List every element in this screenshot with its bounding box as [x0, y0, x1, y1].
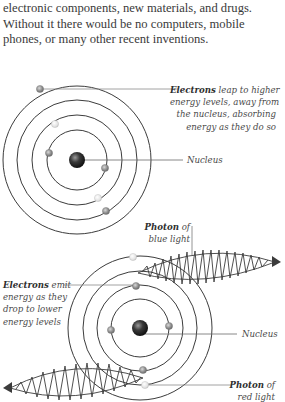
- label-text: the nucleus, absorbing: [170, 108, 276, 120]
- label-text: energy as they do so: [170, 121, 276, 133]
- label-bold: Electrons: [3, 280, 49, 290]
- electrons-absorb-label: Electrons leap to higher energy levels, …: [170, 84, 276, 133]
- photon-red-label: Photon of red light: [220, 379, 275, 402]
- electron-icon: [107, 326, 114, 333]
- label-text: energy levels: [3, 316, 71, 328]
- label-text: red light: [220, 391, 275, 402]
- electron-icon: [101, 164, 108, 171]
- electron-excited-icon: [141, 381, 148, 388]
- arrow-right-icon: [272, 256, 281, 267]
- electron-excited-icon: [51, 120, 58, 127]
- label-text: of: [182, 222, 190, 232]
- label-text: of: [267, 380, 275, 390]
- electron-icon: [45, 149, 52, 156]
- label-bold: Electrons: [170, 85, 216, 95]
- electron-excited-icon: [94, 194, 101, 201]
- label-bold: Photon: [230, 380, 264, 390]
- nucleus-label-1: Nucleus: [187, 154, 223, 166]
- photon-blue-label: Photon of blue light: [140, 221, 190, 245]
- atom-absorption: [3, 85, 183, 234]
- electron-excited-icon: [129, 253, 136, 260]
- label-bold: Photon: [145, 222, 179, 232]
- photon-red-wave: [3, 363, 143, 400]
- nucleus-icon: [69, 152, 85, 168]
- nucleus-label-2: Nucleus: [242, 328, 278, 340]
- electron-icon: [165, 322, 172, 329]
- electrons-emit-label: Electrons emit energy as they drop to lo…: [3, 279, 71, 328]
- electron-icon: [102, 207, 109, 214]
- electron-icon: [139, 366, 146, 373]
- electron-icon: [132, 282, 139, 289]
- atom-diagrams: [0, 0, 285, 402]
- label-text: leap to higher: [219, 85, 280, 95]
- photon-blue-wave: [138, 250, 281, 284]
- nucleus-icon: [132, 320, 148, 336]
- label-text: emit: [52, 280, 71, 290]
- label-text: blue light: [140, 233, 190, 245]
- arrow-left-icon: [3, 382, 12, 393]
- label-text: drop to lower: [3, 303, 71, 315]
- label-text: energy levels, away from: [170, 96, 276, 108]
- label-text: energy as they: [3, 291, 71, 303]
- electron-icon: [36, 85, 43, 92]
